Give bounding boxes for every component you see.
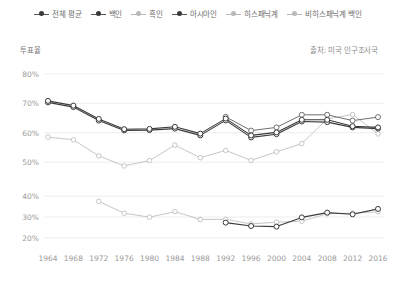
legend-item-5[interactable]: 비히스패닉계 백인 — [287, 10, 362, 19]
legend-label-2: 흑인 — [149, 10, 163, 19]
x-tick-label: 2004 — [292, 254, 311, 263]
data-point[interactable] — [147, 158, 152, 163]
data-point[interactable] — [299, 215, 304, 220]
data-point[interactable] — [274, 224, 279, 229]
upper-panel: 50%60%70%80% — [0, 56, 396, 174]
data-point[interactable] — [223, 148, 228, 153]
x-axis: 1964196819721976198019841988199219962000… — [0, 252, 396, 270]
data-point[interactable] — [274, 130, 279, 135]
data-point[interactable] — [172, 124, 177, 129]
x-tick-label: 2008 — [318, 254, 337, 263]
data-point[interactable] — [376, 115, 381, 120]
data-point[interactable] — [71, 103, 76, 108]
data-point[interactable] — [46, 135, 51, 140]
x-tick-label: 1964 — [38, 254, 57, 263]
data-point[interactable] — [376, 125, 381, 130]
x-tick-label: 1968 — [64, 254, 83, 263]
data-point[interactable] — [249, 224, 254, 229]
data-point[interactable] — [274, 150, 279, 155]
x-tick-label: 1988 — [191, 254, 210, 263]
data-point[interactable] — [249, 128, 254, 133]
data-point[interactable] — [223, 116, 228, 121]
data-point[interactable] — [71, 138, 76, 143]
x-tick-label: 1992 — [216, 254, 235, 263]
data-point[interactable] — [274, 125, 279, 130]
data-point[interactable] — [147, 215, 152, 220]
legend-label-5: 비히스패닉계 백인 — [305, 10, 362, 19]
legend-label-0: 전체 평균 — [52, 10, 81, 19]
line-marker-icon — [287, 10, 302, 19]
data-point[interactable] — [376, 206, 381, 211]
legend-item-2[interactable]: 흑인 — [131, 10, 163, 19]
legend-label-1: 백인 — [109, 10, 123, 19]
lower-panel-plot: 20%30%40% — [0, 182, 396, 252]
y-axis-title: 투표율 — [20, 44, 40, 55]
data-point[interactable] — [299, 117, 304, 122]
data-point[interactable] — [249, 133, 254, 138]
data-point[interactable] — [350, 112, 355, 117]
x-tick-label: 1980 — [140, 254, 159, 263]
legend-label-4: 히스패닉계 — [244, 10, 278, 19]
x-tick-label: 2016 — [368, 254, 387, 263]
y-tick-label: 50% — [22, 158, 39, 167]
data-point[interactable] — [350, 118, 355, 123]
source-note: 출처: 미국 인구조사국 — [310, 44, 378, 55]
data-point[interactable] — [97, 154, 102, 159]
data-point[interactable] — [122, 211, 127, 216]
data-point[interactable] — [173, 143, 178, 148]
data-point[interactable] — [325, 210, 330, 215]
data-point[interactable] — [350, 212, 355, 217]
data-point[interactable] — [300, 141, 305, 146]
data-point[interactable] — [198, 131, 203, 136]
lower-panel: 20%30%40% — [0, 182, 396, 252]
data-point[interactable] — [249, 158, 254, 163]
data-point[interactable] — [173, 209, 178, 214]
y-tick-label: 40% — [22, 192, 39, 201]
x-tick-label: 2012 — [343, 254, 362, 263]
chart-legend: 전체 평균 백인 흑인 아시아인 히스패닉계 비히스패닉계 백인 — [0, 6, 396, 22]
x-tick-label: 1984 — [165, 254, 184, 263]
x-axis-labels: 1964196819721976198019841988199219962000… — [0, 252, 396, 270]
legend-item-1[interactable]: 백인 — [91, 10, 123, 19]
data-point[interactable] — [325, 117, 330, 122]
upper-panel-plot: 50%60%70%80% — [0, 56, 396, 174]
y-tick-label: 30% — [22, 213, 39, 222]
data-point[interactable] — [299, 112, 304, 117]
data-point[interactable] — [96, 116, 101, 121]
y-tick-label: 80% — [22, 70, 39, 79]
chart-root: 전체 평균 백인 흑인 아시아인 히스패닉계 비히스패닉계 백인 투표율 출처:… — [0, 0, 396, 292]
line-marker-icon — [226, 10, 241, 19]
data-point[interactable] — [376, 132, 381, 137]
x-tick-label: 1996 — [242, 254, 261, 263]
legend-item-0[interactable]: 전체 평균 — [34, 10, 81, 19]
line-marker-icon — [172, 10, 187, 19]
data-point[interactable] — [198, 155, 203, 160]
data-point[interactable] — [223, 220, 228, 225]
data-point[interactable] — [325, 112, 330, 117]
y-tick-label: 20% — [22, 234, 39, 243]
x-tick-label: 1972 — [89, 254, 108, 263]
data-point[interactable] — [147, 126, 152, 131]
y-tick-label: 70% — [22, 99, 39, 108]
x-tick-label: 2000 — [267, 254, 286, 263]
line-marker-icon — [91, 10, 106, 19]
data-point[interactable] — [97, 199, 102, 204]
x-tick-label: 1976 — [115, 254, 134, 263]
legend-item-4[interactable]: 히스패닉계 — [226, 10, 278, 19]
data-point[interactable] — [122, 127, 127, 132]
data-point[interactable] — [350, 124, 355, 129]
line-marker-icon — [34, 10, 49, 19]
legend-label-3: 아시아인 — [190, 10, 217, 19]
y-tick-label: 60% — [22, 129, 39, 138]
data-point[interactable] — [46, 98, 51, 103]
line-marker-icon — [131, 10, 146, 19]
legend-item-3[interactable]: 아시아인 — [172, 10, 217, 19]
data-point[interactable] — [198, 217, 203, 222]
data-point[interactable] — [122, 164, 127, 169]
